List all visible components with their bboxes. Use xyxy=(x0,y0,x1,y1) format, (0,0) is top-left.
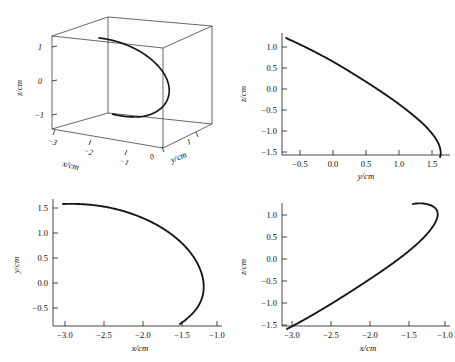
y-ticks-zx: 1.0 0.5 0.0 −0.5 −1.0 −1.5 z/cm xyxy=(238,210,287,330)
svg-text:0.0: 0.0 xyxy=(37,278,48,288)
y-ticks-zy: 1.0 0.5 0.0 −0.5 −1.0 −1.5 z/cm xyxy=(238,42,287,157)
trajectory-curve-zy xyxy=(286,38,441,157)
svg-text:1.5: 1.5 xyxy=(427,159,438,169)
svg-text:0.5: 0.5 xyxy=(266,232,277,242)
svg-text:−1.5: −1.5 xyxy=(401,330,416,340)
svg-text:0.5: 0.5 xyxy=(37,253,48,263)
svg-text:−1.5: −1.5 xyxy=(262,320,277,330)
svg-text:−2.0: −2.0 xyxy=(135,330,150,340)
svg-text:1: 1 xyxy=(185,137,192,147)
svg-text:−3.0: −3.0 xyxy=(284,330,299,340)
svg-text:−1.5: −1.5 xyxy=(174,330,189,340)
svg-text:−2.5: −2.5 xyxy=(96,330,111,340)
figure-canvas: 1 0 −1 z/cm −3 −2 −1 x/cm 0 1 y xyxy=(0,0,455,362)
svg-text:0: 0 xyxy=(148,152,155,162)
svg-text:−2: −2 xyxy=(82,146,93,157)
svg-text:0.0: 0.0 xyxy=(266,84,277,94)
svg-text:−0.5: −0.5 xyxy=(33,303,48,313)
trajectory-curve-yx xyxy=(63,204,204,324)
svg-text:0.0: 0.0 xyxy=(328,159,339,169)
svg-text:−2.5: −2.5 xyxy=(323,330,338,340)
trajectory-curve-3d xyxy=(99,38,169,117)
svg-text:1.0: 1.0 xyxy=(266,42,277,52)
svg-text:1.0: 1.0 xyxy=(394,159,405,169)
svg-text:0.5: 0.5 xyxy=(361,159,372,169)
box-wireframe xyxy=(52,17,212,148)
svg-text:1.0: 1.0 xyxy=(37,228,48,238)
svg-text:z/cm: z/cm xyxy=(238,86,248,103)
svg-text:0: 0 xyxy=(38,77,42,86)
svg-text:1.0: 1.0 xyxy=(266,210,277,220)
svg-text:−3.0: −3.0 xyxy=(57,330,72,340)
svg-text:−0.5: −0.5 xyxy=(292,159,307,169)
svg-text:z/cm: z/cm xyxy=(14,80,24,97)
svg-text:−2.0: −2.0 xyxy=(362,330,377,340)
svg-text:−1: −1 xyxy=(35,111,44,120)
svg-text:−0.5: −0.5 xyxy=(262,105,277,115)
axes-frame-zx xyxy=(282,203,450,326)
trajectory-curve-zx xyxy=(287,203,438,329)
panel-z-vs-x: 1.0 0.5 0.0 −0.5 −1.0 −1.5 z/cm −3.0 −2.… xyxy=(228,181,455,362)
svg-text:1.5: 1.5 xyxy=(37,203,48,213)
panel-3d-trajectory: 1 0 −1 z/cm −3 −2 −1 x/cm 0 1 y xyxy=(0,0,228,181)
panel-z-vs-y: 1.0 0.5 0.0 −0.5 −1.0 −1.5 z/cm −0.5 0.0… xyxy=(228,0,455,181)
svg-text:−1: −1 xyxy=(118,156,129,167)
axes-frame-zy xyxy=(282,33,450,155)
x-axis-3d: −3 −2 −1 x/cm xyxy=(46,130,129,172)
svg-text:−1.0: −1.0 xyxy=(262,298,277,308)
svg-text:−3: −3 xyxy=(46,136,57,147)
svg-text:−1.0: −1.0 xyxy=(209,330,224,340)
svg-text:−0.5: −0.5 xyxy=(262,276,277,286)
svg-text:x/cm: x/cm xyxy=(359,343,377,353)
svg-text:−1.0: −1.0 xyxy=(437,330,452,340)
svg-text:y/cm: y/cm xyxy=(168,149,188,165)
z-axis-3d: 1 0 −1 z/cm xyxy=(14,43,57,120)
svg-text:x/cm: x/cm xyxy=(131,343,149,353)
y-axis-3d: 0 1 y/cm xyxy=(148,132,198,165)
svg-text:z/cm: z/cm xyxy=(238,259,248,276)
svg-text:y/cm: y/cm xyxy=(357,171,375,181)
svg-text:y/cm: y/cm xyxy=(11,257,21,275)
panel-y-vs-x: 1.5 1.0 0.5 0.0 −0.5 y/cm −3.0 −2.5 −2.0… xyxy=(0,181,228,362)
y-ticks-yx: 1.5 1.0 0.5 0.0 −0.5 y/cm xyxy=(11,203,58,313)
svg-text:1: 1 xyxy=(38,43,42,52)
svg-text:0.5: 0.5 xyxy=(266,63,277,73)
svg-text:x/cm: x/cm xyxy=(61,158,81,172)
svg-text:−1.5: −1.5 xyxy=(262,147,277,157)
svg-text:0.0: 0.0 xyxy=(266,254,277,264)
svg-text:−1.0: −1.0 xyxy=(262,126,277,136)
